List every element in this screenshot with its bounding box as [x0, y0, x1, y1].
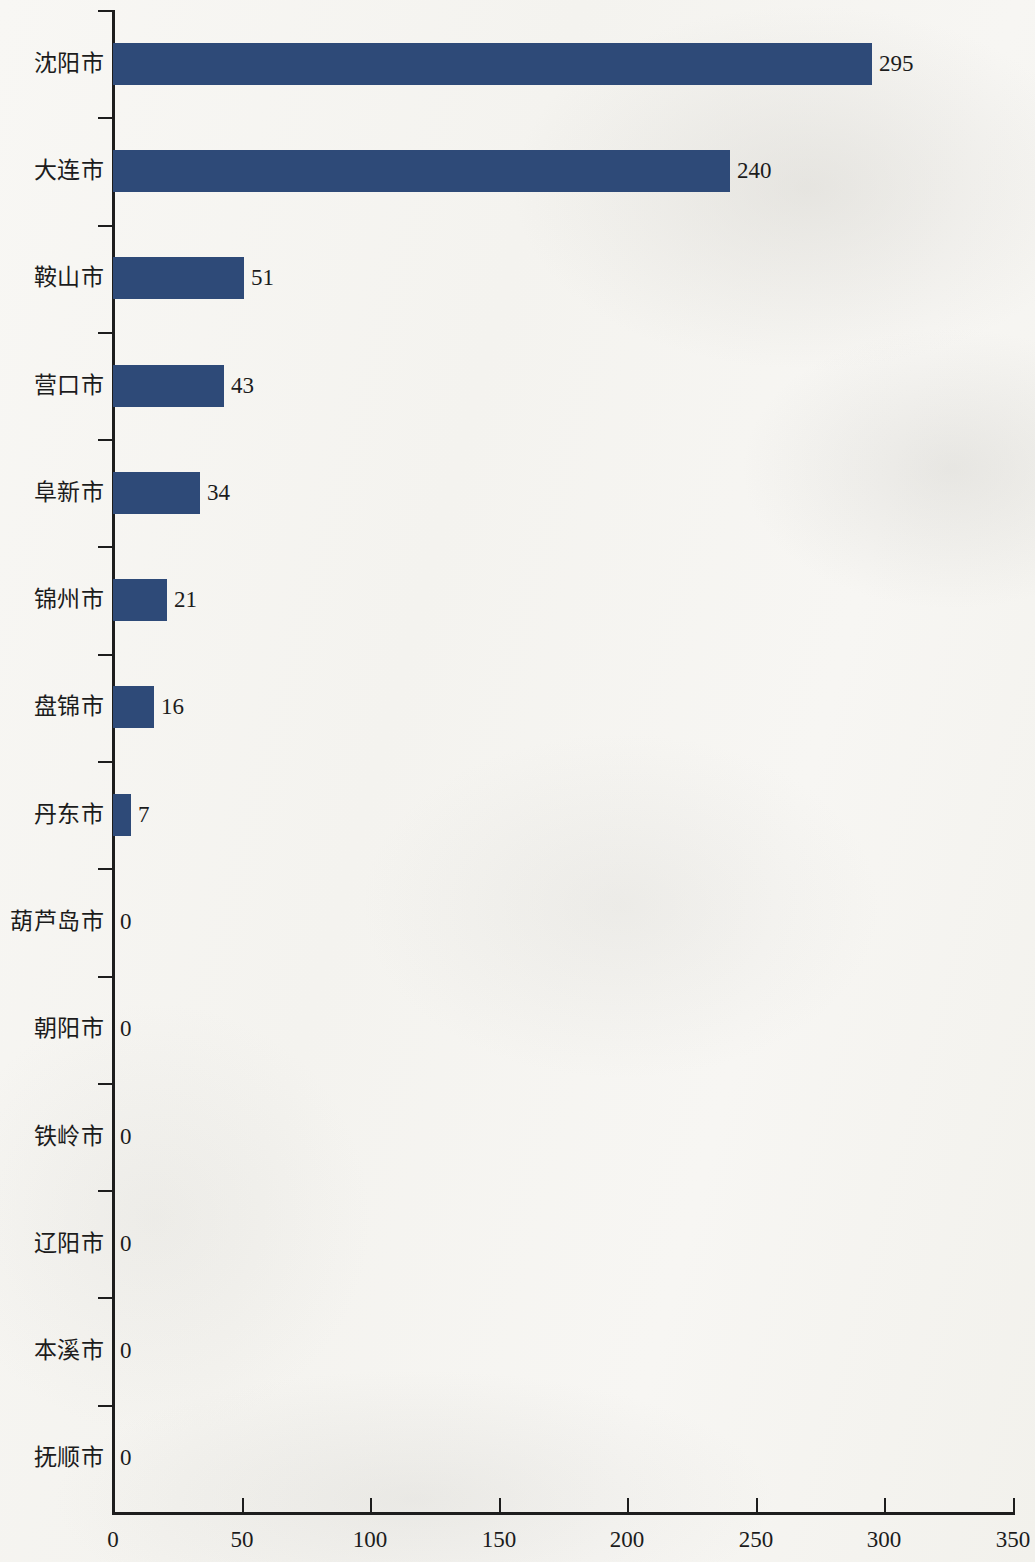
bar-value-label: 51: [251, 266, 274, 289]
category-label: 丹东市: [0, 803, 104, 826]
bar: [113, 794, 131, 836]
category-label: 大连市: [0, 159, 104, 182]
category-label: 锦州市: [0, 588, 104, 611]
x-axis-tick-label: 300: [844, 1528, 924, 1551]
bar-value-label: 16: [161, 695, 184, 718]
bar: [113, 257, 244, 299]
x-axis-tick: [370, 1498, 372, 1513]
y-axis-tick: [98, 868, 114, 870]
category-label: 葫芦岛市: [0, 910, 104, 933]
bar-value-label: 43: [231, 374, 254, 397]
x-axis-tick-label: 250: [716, 1528, 796, 1551]
y-axis-tick: [98, 976, 114, 978]
y-axis-tick: [98, 10, 114, 12]
bar: [113, 579, 167, 621]
y-axis-tick: [98, 439, 114, 441]
horizontal-bar-chart: 沈阳市大连市鞍山市营口市阜新市锦州市盘锦市丹东市葫芦岛市朝阳市铁岭市辽阳市本溪市…: [0, 0, 1035, 1562]
category-label: 朝阳市: [0, 1017, 104, 1040]
x-axis-tick-label: 0: [73, 1528, 153, 1551]
bar: [113, 43, 872, 85]
x-axis-tick-label: 50: [202, 1528, 282, 1551]
y-axis-tick: [98, 225, 114, 227]
y-axis-tick: [98, 1083, 114, 1085]
y-axis-tick: [98, 654, 114, 656]
category-label: 鞍山市: [0, 266, 104, 289]
x-axis-line: [112, 1512, 1015, 1515]
x-axis-tick-label: 200: [587, 1528, 667, 1551]
x-axis-tick-label: 350: [973, 1528, 1035, 1551]
bar-value-label: 0: [120, 910, 132, 933]
y-axis-tick: [98, 546, 114, 548]
bar: [113, 472, 200, 514]
category-label: 铁岭市: [0, 1125, 104, 1148]
x-axis-tick: [499, 1498, 501, 1513]
category-label: 沈阳市: [0, 52, 104, 75]
bar: [113, 150, 730, 192]
category-label: 盘锦市: [0, 695, 104, 718]
x-axis-tick: [242, 1498, 244, 1513]
y-axis-tick: [98, 1297, 114, 1299]
bar: [113, 686, 154, 728]
category-label: 本溪市: [0, 1339, 104, 1362]
bar-value-label: 0: [120, 1232, 132, 1255]
x-axis-tick: [627, 1498, 629, 1513]
bar: [113, 365, 224, 407]
x-axis-tick: [1013, 1498, 1015, 1513]
bar-value-label: 34: [207, 481, 230, 504]
category-label: 营口市: [0, 374, 104, 397]
x-axis-tick: [756, 1498, 758, 1513]
y-axis-tick: [98, 117, 114, 119]
bar-value-label: 0: [120, 1446, 132, 1469]
x-axis-tick-label: 100: [330, 1528, 410, 1551]
category-label: 辽阳市: [0, 1232, 104, 1255]
x-axis-tick: [884, 1498, 886, 1513]
y-axis-tick: [98, 761, 114, 763]
y-axis-tick: [98, 332, 114, 334]
y-axis-tick: [98, 1190, 114, 1192]
bar-value-label: 240: [737, 159, 772, 182]
x-axis-tick-label: 150: [459, 1528, 539, 1551]
bar-value-label: 0: [120, 1017, 132, 1040]
bar-value-label: 21: [174, 588, 197, 611]
y-axis-tick: [98, 1405, 114, 1407]
category-label: 阜新市: [0, 481, 104, 504]
bar-value-label: 0: [120, 1125, 132, 1148]
bar-value-label: 7: [138, 803, 150, 826]
category-label: 抚顺市: [0, 1446, 104, 1469]
bar-value-label: 295: [879, 52, 914, 75]
bar-value-label: 0: [120, 1339, 132, 1362]
